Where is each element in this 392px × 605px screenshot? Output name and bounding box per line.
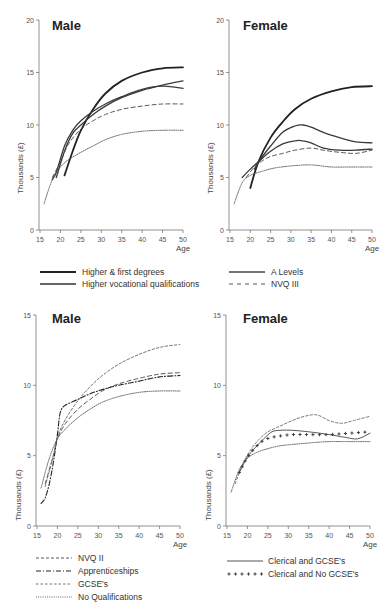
x-tick-label: 30 <box>287 236 295 243</box>
legend-label: No Qualifications <box>78 592 142 602</box>
series-higher-vocational-qualifications <box>56 81 183 178</box>
x-axis-label: Age <box>176 244 191 253</box>
panel-title: Male <box>52 311 81 326</box>
series-no-qualifications <box>231 442 370 493</box>
x-tick-label: 20 <box>246 236 254 243</box>
y-tick-label: 10 <box>213 382 221 389</box>
x-tick-label: 25 <box>77 236 85 243</box>
x-tick-label: 45 <box>156 532 164 539</box>
plot-top-right: 051015201520253035404550 <box>216 17 376 244</box>
x-tick-label: 50 <box>176 532 184 539</box>
y-tick-label: 20 <box>26 17 34 24</box>
x-axis-label: Age <box>173 540 188 549</box>
x-tick-label: 45 <box>346 532 354 539</box>
x-tick-label: 50 <box>368 236 376 243</box>
legend-top: Higher & first degrees Higher vocational… <box>40 267 303 289</box>
legend-label: Higher vocational qualifications <box>82 279 199 289</box>
y-tick-label: 0 <box>27 523 31 530</box>
y-axis-label: Thousands (£) <box>204 469 213 521</box>
series-no-qualifications <box>41 391 180 488</box>
legend-label: GCSE's <box>78 579 108 589</box>
x-tick-label: 30 <box>94 532 102 539</box>
x-axis-label: Age <box>365 244 380 253</box>
panel-top-left-male: Male Thousands (£) Age <box>16 18 191 253</box>
y-tick-label: 10 <box>216 122 224 129</box>
y-tick-label: 0 <box>220 227 224 234</box>
series-gcse-s <box>235 415 370 484</box>
x-tick-label: 25 <box>267 236 275 243</box>
x-tick-label: 20 <box>57 236 65 243</box>
x-tick-label: 40 <box>135 532 143 539</box>
x-tick-label: 45 <box>159 236 167 243</box>
legend-label: Apprenticeships <box>78 566 138 576</box>
panel-title: Female <box>243 311 288 326</box>
legend-label: NVQ III <box>271 279 299 289</box>
x-tick-label: 35 <box>115 532 123 539</box>
x-axis-label: Age <box>363 540 378 549</box>
panel-title: Male <box>52 18 81 33</box>
y-tick-label: 15 <box>23 312 31 319</box>
series-higher-first-degrees <box>65 67 184 175</box>
x-tick-label: 45 <box>348 236 356 243</box>
series-gcse-s <box>45 345 180 487</box>
series-no-qualifications <box>44 130 183 204</box>
x-tick-label: 15 <box>36 236 44 243</box>
plot-bottom-right: 0510151520253035404550 <box>213 312 374 540</box>
x-tick-label: 30 <box>97 236 105 243</box>
x-tick-label: 30 <box>284 532 292 539</box>
x-tick-label: 20 <box>54 532 62 539</box>
series-nvq-ii <box>45 373 180 484</box>
legend-label: NVQ II <box>78 553 104 563</box>
y-tick-label: 0 <box>30 227 34 234</box>
x-tick-label: 40 <box>325 532 333 539</box>
panel-title: Female <box>243 18 288 33</box>
series-higher-vocational-qualifications <box>254 125 372 169</box>
panel-top-right-female: Female Thousands (£) Age <box>206 18 380 253</box>
x-tick-label: 40 <box>138 236 146 243</box>
x-tick-label: 35 <box>307 236 315 243</box>
legend-label: A Levels <box>271 267 303 277</box>
legend-bottom-right: Clerical and GCSE's Clerical and No GCSE… <box>227 556 358 579</box>
plot-top-left: 051015201520253035404550 <box>26 17 187 244</box>
x-tick-label: 15 <box>223 532 231 539</box>
y-axis-label: Thousands (£) <box>16 142 25 194</box>
y-tick-label: 15 <box>26 69 34 76</box>
y-tick-label: 5 <box>217 452 221 459</box>
x-tick-label: 35 <box>118 236 126 243</box>
y-tick-label: 10 <box>26 122 34 129</box>
series-higher-first-degrees <box>250 86 372 188</box>
x-tick-label: 50 <box>179 236 187 243</box>
legend-label: Higher & first degrees <box>82 267 164 277</box>
plot-area: 0510152015202530354045500510152015202530… <box>23 17 376 540</box>
y-tick-label: 15 <box>213 312 221 319</box>
y-axis-label: Thousands (£) <box>14 469 23 521</box>
x-tick-label: 15 <box>33 532 41 539</box>
x-tick-label: 35 <box>305 532 313 539</box>
legend-bottom-left: NVQ II Apprenticeships GCSE's No Qualifi… <box>36 553 142 602</box>
x-tick-label: 50 <box>366 532 374 539</box>
y-axis-label: Thousands (£) <box>206 142 215 194</box>
y-tick-label: 5 <box>27 452 31 459</box>
legend-label: Clerical and GCSE's <box>268 556 345 566</box>
y-tick-label: 5 <box>220 174 224 181</box>
y-tick-label: 10 <box>23 382 31 389</box>
series-apprenticeships <box>41 376 180 504</box>
y-tick-label: 15 <box>216 69 224 76</box>
x-tick-label: 15 <box>226 236 234 243</box>
legend-label: Clerical and No GCSE's <box>268 569 358 579</box>
plot-bottom-left: 0510151520253035404550 <box>23 312 184 540</box>
y-tick-label: 0 <box>217 523 221 530</box>
x-tick-label: 25 <box>264 532 272 539</box>
y-tick-label: 5 <box>30 174 34 181</box>
legend-plus-markers-icon <box>227 572 263 575</box>
x-tick-label: 40 <box>328 236 336 243</box>
chart-figure: Male Thousands (£) Age Female Thousands … <box>0 0 392 605</box>
y-tick-label: 20 <box>216 17 224 24</box>
x-tick-label: 20 <box>244 532 252 539</box>
series-nvq-iii <box>52 104 183 178</box>
series-a-levels <box>242 140 372 177</box>
x-tick-label: 25 <box>74 532 82 539</box>
